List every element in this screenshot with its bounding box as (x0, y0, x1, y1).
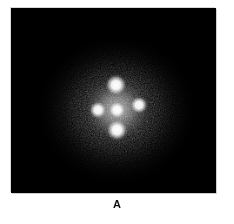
panel-label-a: A (0, 198, 234, 210)
image-panel[interactable] (11, 8, 216, 193)
bright-spot-cluster (11, 8, 216, 193)
figure-panel: A (0, 0, 234, 224)
detector-streak-texture (11, 8, 216, 193)
corner-vignette (11, 8, 216, 193)
diffuse-halo-inner (11, 8, 216, 193)
speckle-noise-texture (11, 8, 216, 193)
diffuse-halo-outer (11, 8, 216, 193)
